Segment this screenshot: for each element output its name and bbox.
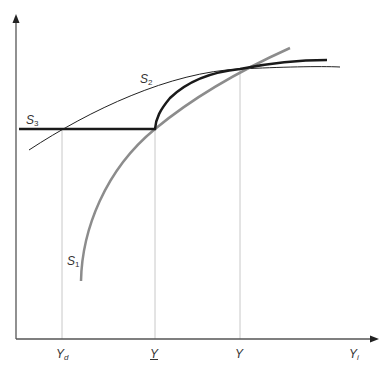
y-axis-arrow-icon: [13, 14, 20, 23]
curve-s1: [81, 48, 290, 281]
tick-label-y: Y: [235, 348, 243, 360]
curve-s2: [29, 67, 340, 150]
diagram-canvas: [0, 0, 390, 369]
label-s1: S1: [67, 255, 79, 269]
label-s2: S2: [140, 73, 152, 87]
x-axis-arrow-icon: [370, 336, 379, 343]
tick-label-y-underline: Y: [150, 348, 158, 360]
x-axis-label: Yi: [349, 348, 359, 362]
label-s3: S3: [26, 114, 38, 128]
tick-label-yd: Yd: [56, 348, 68, 362]
curve-s3: [19, 60, 327, 129]
